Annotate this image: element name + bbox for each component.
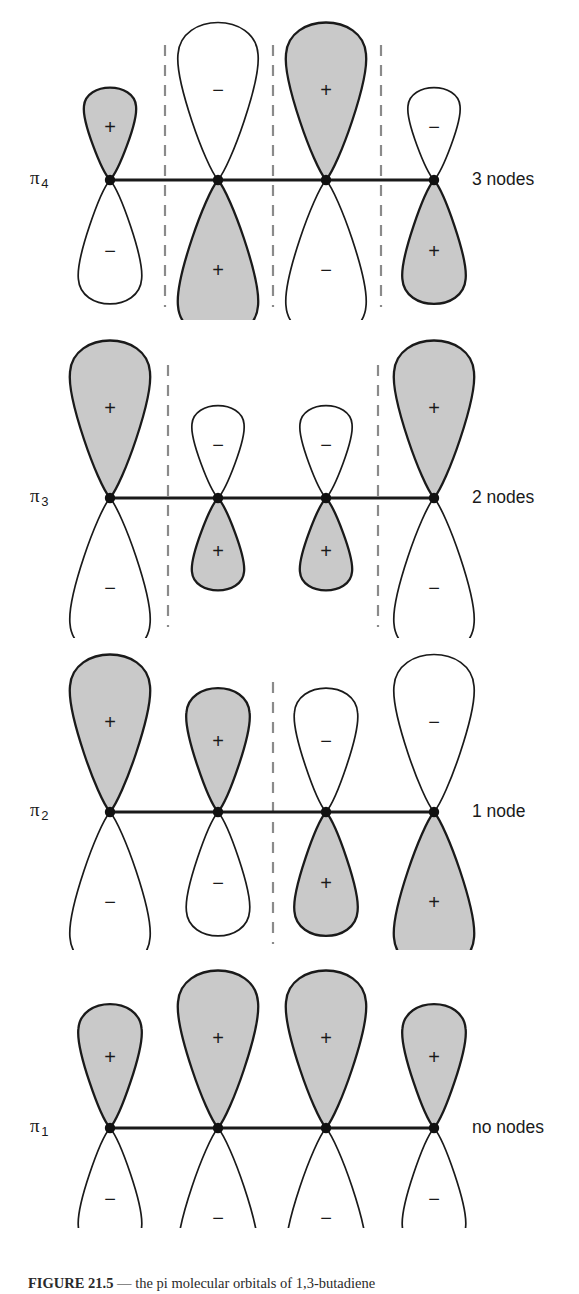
lobe-phase-sign: + bbox=[320, 540, 332, 562]
orbital-symbol-label-pi3: π3 bbox=[30, 485, 49, 509]
lobe-phase-sign: + bbox=[428, 891, 440, 913]
p-orbital-lobe-bottom bbox=[402, 1128, 466, 1228]
orbital-symbol-label-pi4: π4 bbox=[30, 167, 49, 191]
orbital-subscript: 3 bbox=[40, 494, 49, 509]
p-orbital-lobe-top bbox=[70, 655, 150, 813]
mo-row-pi3: +−−+−++−π32 nodes bbox=[0, 338, 579, 638]
lobe-phase-sign: − bbox=[212, 79, 224, 101]
p-orbital-lobe-bottom bbox=[178, 180, 258, 320]
node-count-label-pi2: 1 node bbox=[472, 801, 526, 822]
p-orbital-lobe-top bbox=[178, 23, 258, 181]
lobe-phase-sign: − bbox=[104, 891, 116, 913]
lobe-phase-sign: + bbox=[320, 79, 332, 101]
carbon-atom-dot bbox=[429, 493, 439, 503]
p-orbital-lobe-bottom bbox=[394, 812, 474, 950]
p-orbital-lobe-top bbox=[286, 971, 366, 1129]
lobe-phase-sign: + bbox=[104, 116, 116, 138]
carbon-atom-dot bbox=[105, 1123, 115, 1133]
lobe-phase-sign: − bbox=[212, 1207, 224, 1228]
p-orbital-lobe-top bbox=[70, 341, 150, 499]
lobe-phase-sign: + bbox=[428, 397, 440, 419]
node-count-label-pi1: no nodes bbox=[472, 1117, 544, 1138]
p-orbital-lobe-top bbox=[394, 341, 474, 499]
p-orbital-lobe-bottom bbox=[70, 812, 150, 950]
orbital-symbol: π bbox=[30, 167, 40, 188]
lobe-phase-sign: − bbox=[104, 1188, 116, 1210]
orbital-symbol: π bbox=[30, 485, 40, 506]
lobe-phase-sign: + bbox=[104, 397, 116, 419]
lobe-phase-sign: + bbox=[212, 1027, 224, 1049]
carbon-atom-dot bbox=[429, 807, 439, 817]
carbon-atom-dot bbox=[213, 807, 223, 817]
figure-caption: FIGURE 21.5 — the pi molecular orbitals … bbox=[28, 1274, 558, 1292]
p-orbital-lobe-bottom bbox=[394, 498, 474, 638]
lobe-phase-sign: − bbox=[212, 872, 224, 894]
lobe-phase-sign: + bbox=[212, 540, 224, 562]
orbital-symbol: π bbox=[30, 1115, 40, 1136]
orbital-subscript: 4 bbox=[40, 176, 49, 191]
carbon-atom-dot bbox=[321, 493, 331, 503]
p-orbital-lobe-top bbox=[178, 971, 258, 1129]
orbital-symbol: π bbox=[30, 799, 40, 820]
p-orbital-lobe-bottom bbox=[70, 498, 150, 638]
lobe-phase-sign: + bbox=[320, 872, 332, 894]
lobe-phase-sign: − bbox=[320, 730, 332, 752]
mo-row-pi2: +−+−−+−+π21 node bbox=[0, 650, 579, 950]
node-count-label-pi3: 2 nodes bbox=[472, 487, 534, 508]
lobe-phase-sign: − bbox=[320, 259, 332, 281]
carbon-atom-dot bbox=[105, 807, 115, 817]
figure-caption-text: — the pi molecular orbitals of 1,3-butad… bbox=[113, 1275, 375, 1291]
figure-number: FIGURE 21.5 bbox=[28, 1275, 113, 1291]
carbon-atom-dot bbox=[321, 1123, 331, 1133]
lobe-phase-sign: + bbox=[428, 240, 440, 262]
orbital-subscript: 2 bbox=[40, 808, 49, 823]
mo-row-pi1: +−+−+−+−π1no nodes bbox=[0, 968, 579, 1228]
lobe-phase-sign: − bbox=[428, 711, 440, 733]
orbital-symbol-label-pi1: π1 bbox=[30, 1115, 49, 1139]
p-orbital-lobe-top bbox=[394, 655, 474, 813]
carbon-atom-dot bbox=[321, 175, 331, 185]
lobe-phase-sign: − bbox=[428, 116, 440, 138]
lobe-phase-sign: − bbox=[104, 577, 116, 599]
lobe-phase-sign: + bbox=[104, 1046, 116, 1068]
carbon-atom-dot bbox=[213, 493, 223, 503]
carbon-atom-dot bbox=[105, 175, 115, 185]
lobe-phase-sign: + bbox=[212, 730, 224, 752]
p-orbital-lobe-bottom bbox=[286, 180, 366, 320]
carbon-atom-dot bbox=[213, 175, 223, 185]
lobe-phase-sign: + bbox=[212, 259, 224, 281]
carbon-atom-dot bbox=[429, 175, 439, 185]
carbon-atom-dot bbox=[321, 807, 331, 817]
pi-molecular-orbital-figure: +−−++−−+π43 nodes+−−+−++−π32 nodes+−+−−+… bbox=[0, 0, 579, 1294]
p-orbital-lobe-bottom bbox=[78, 1128, 142, 1228]
node-count-label-pi4: 3 nodes bbox=[472, 169, 534, 190]
mo-row-pi4: +−−++−−+π43 nodes bbox=[0, 20, 579, 320]
carbon-atom-dot bbox=[213, 1123, 223, 1133]
lobe-phase-sign: − bbox=[428, 1188, 440, 1210]
mo-diagram-pi1: +−+−+−+− bbox=[0, 968, 579, 1228]
lobe-phase-sign: − bbox=[320, 1207, 332, 1228]
lobe-phase-sign: + bbox=[428, 1046, 440, 1068]
orbital-subscript: 1 bbox=[40, 1124, 49, 1139]
lobe-phase-sign: − bbox=[320, 434, 332, 456]
lobe-phase-sign: − bbox=[212, 434, 224, 456]
mo-diagram-pi2: +−+−−+−+ bbox=[0, 650, 579, 950]
lobe-phase-sign: − bbox=[428, 577, 440, 599]
carbon-atom-dot bbox=[105, 493, 115, 503]
lobe-phase-sign: + bbox=[320, 1027, 332, 1049]
lobe-phase-sign: − bbox=[104, 240, 116, 262]
p-orbital-lobe-top bbox=[286, 23, 366, 181]
carbon-atom-dot bbox=[429, 1123, 439, 1133]
lobe-phase-sign: + bbox=[104, 711, 116, 733]
orbital-symbol-label-pi2: π2 bbox=[30, 799, 49, 823]
